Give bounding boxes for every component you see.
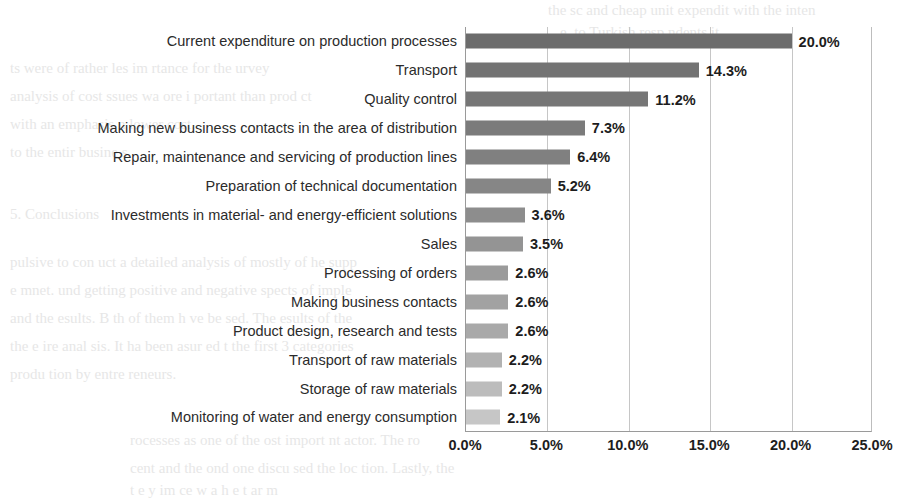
bar-container: 11.2% xyxy=(466,92,696,107)
bar-value-label: 14.3% xyxy=(706,63,747,78)
bar-value-label: 2.6% xyxy=(515,295,548,310)
bar-value-label: 2.6% xyxy=(515,323,548,338)
category-label: Product design, research and tests xyxy=(0,323,457,338)
category-label: Investments in material- and energy-effi… xyxy=(0,208,457,223)
x-axis-ticks: 0.0%5.0%10.0%15.0%20.0%25.0% xyxy=(465,437,872,459)
bar-container: 3.5% xyxy=(466,236,563,251)
category-label: Transport xyxy=(0,63,457,78)
category-label: Monitoring of water and energy consumpti… xyxy=(0,410,457,425)
category-label: Sales xyxy=(0,237,457,252)
x-tick-label: 25.0% xyxy=(851,437,892,453)
category-label: Processing of orders xyxy=(0,266,457,281)
category-label: Making new business contacts in the area… xyxy=(0,121,457,136)
bar-container: 2.1% xyxy=(466,410,540,425)
category-label: Quality control xyxy=(0,92,457,107)
category-label: Repair, maintenance and servicing of pro… xyxy=(0,150,457,165)
bar xyxy=(466,381,502,396)
bar-row: Making new business contacts in the area… xyxy=(0,114,919,143)
bar-value-label: 11.2% xyxy=(655,92,695,107)
bar-row: Product design, research and tests2.6% xyxy=(0,316,919,345)
bar-container: 20.0% xyxy=(466,34,840,49)
bar-container: 5.2% xyxy=(466,179,591,194)
bar-container: 3.6% xyxy=(466,207,565,222)
category-label: Making business contacts xyxy=(0,295,457,310)
bar-row: Transport of raw materials2.2% xyxy=(0,345,919,374)
category-label: Current expenditure on production proces… xyxy=(0,34,457,49)
bar-row: Making business contacts2.6% xyxy=(0,287,919,316)
bar-container: 7.3% xyxy=(466,121,625,136)
category-label: Transport of raw materials xyxy=(0,352,457,367)
bar-container: 2.2% xyxy=(466,381,542,396)
bar-container: 2.6% xyxy=(466,323,548,338)
bar xyxy=(466,410,500,425)
x-tick-label: 20.0% xyxy=(770,437,811,453)
bar-row: Quality control11.2% xyxy=(0,85,919,114)
bar-value-label: 20.0% xyxy=(799,34,840,49)
bar-value-label: 3.5% xyxy=(530,237,563,252)
bar xyxy=(466,34,792,49)
bar-row: Monitoring of water and energy consumpti… xyxy=(0,403,919,432)
bar-value-label: 2.2% xyxy=(509,352,542,367)
bar xyxy=(466,265,508,280)
bar xyxy=(466,236,523,251)
bar-row: Repair, maintenance and servicing of pro… xyxy=(0,143,919,172)
bar xyxy=(466,179,551,194)
bar-value-label: 7.3% xyxy=(592,121,625,136)
bar-container: 2.2% xyxy=(466,352,542,367)
bar xyxy=(466,63,699,78)
bar xyxy=(466,323,508,338)
bar-row: Storage of raw materials2.2% xyxy=(0,374,919,403)
bar-row: Preparation of technical documentation5.… xyxy=(0,172,919,201)
category-label: Preparation of technical documentation xyxy=(0,179,457,194)
bar-value-label: 5.2% xyxy=(558,179,591,194)
bar-value-label: 3.6% xyxy=(532,208,565,223)
bar-row: Investments in material- and energy-effi… xyxy=(0,201,919,230)
bar xyxy=(466,150,570,165)
bar xyxy=(466,92,648,107)
x-tick-label: 5.0% xyxy=(530,437,563,453)
bar-rows: Current expenditure on production proces… xyxy=(0,27,919,432)
bar xyxy=(466,207,525,222)
bar-row: Transport14.3% xyxy=(0,56,919,85)
bar-container: 2.6% xyxy=(466,294,548,309)
bar-value-label: 2.6% xyxy=(515,266,548,281)
bar-row: Sales3.5% xyxy=(0,229,919,258)
bar-container: 14.3% xyxy=(466,63,747,78)
x-tick-label: 15.0% xyxy=(689,437,730,453)
bar-value-label: 2.1% xyxy=(507,410,540,425)
bar-value-label: 2.2% xyxy=(509,381,542,396)
bar-container: 6.4% xyxy=(466,150,610,165)
bar-value-label: 6.4% xyxy=(577,150,610,165)
x-tick-label: 0.0% xyxy=(448,437,481,453)
bar xyxy=(466,294,508,309)
bar-row: Processing of orders2.6% xyxy=(0,258,919,287)
bar-row: Current expenditure on production proces… xyxy=(0,27,919,56)
bar xyxy=(466,121,585,136)
x-tick-label: 10.0% xyxy=(607,437,648,453)
bar-container: 2.6% xyxy=(466,265,548,280)
bar xyxy=(466,352,502,367)
category-label: Storage of raw materials xyxy=(0,381,457,396)
